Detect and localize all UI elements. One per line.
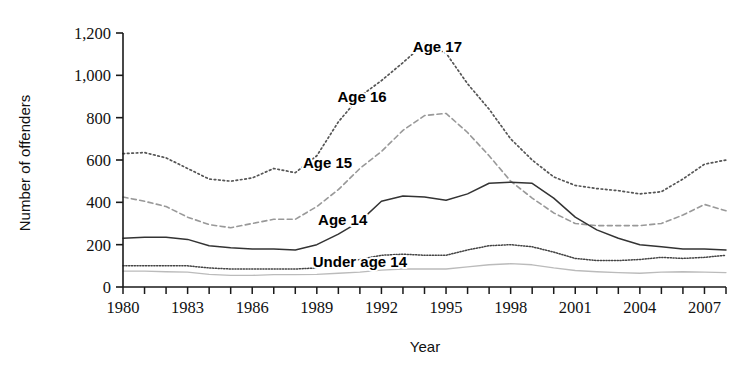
x-tick-label: 1983 [171,298,204,317]
series-label: Age 15 [303,154,352,171]
x-tick-label: 2007 [688,298,721,317]
y-tick-label: 400 [86,193,111,212]
series-label: Age 16 [337,88,386,105]
series-label: Age 14 [318,211,368,228]
x-tick-label: 1980 [107,298,140,317]
y-tick-label: 800 [86,109,111,128]
series-label: Age 17 [413,38,462,55]
x-tick-label: 1995 [430,298,463,317]
x-axis-title: Year [410,338,440,355]
x-tick-label: 1986 [236,298,269,317]
chart-figure: 02004006008001,0001,20019801983198619891… [0,0,742,368]
x-tick-label: 2001 [559,298,592,317]
y-tick-label: 1,000 [74,66,111,85]
series-label: Under age 14 [313,253,408,270]
line-chart: 02004006008001,0001,20019801983198619891… [0,0,742,368]
x-tick-label: 1992 [365,298,398,317]
y-axis-title: Number of offenders [16,95,33,231]
x-tick-label: 2004 [623,298,656,317]
y-tick-label: 1,200 [74,24,111,43]
y-tick-label: 200 [86,236,111,255]
x-tick-label: 1989 [300,298,333,317]
y-tick-label: 0 [103,278,111,297]
y-tick-label: 600 [86,151,111,170]
x-tick-label: 1998 [494,298,527,317]
